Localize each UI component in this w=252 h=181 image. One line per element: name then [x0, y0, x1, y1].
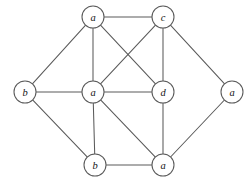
graph-node[interactable]: a — [221, 81, 243, 103]
graph-node[interactable]: a — [152, 154, 174, 176]
graph-edge — [171, 100, 225, 157]
graph-node-label: a — [90, 12, 95, 23]
graph-node-label: a — [90, 87, 95, 98]
graph-edge — [93, 103, 94, 154]
graph-canvas: acbadaba — [0, 0, 252, 181]
node-layer: acbadaba — [14, 6, 243, 176]
graph-edge — [101, 100, 156, 157]
edge-layer — [32, 17, 224, 165]
graph-edge — [33, 100, 88, 157]
graph-node-label: b — [22, 87, 27, 98]
graph-node[interactable]: a — [82, 81, 104, 103]
graph-edge — [170, 25, 224, 84]
graph-node-label: a — [160, 160, 165, 171]
graph-diagram: acbadaba — [0, 0, 252, 181]
graph-node[interactable]: d — [152, 81, 174, 103]
graph-node-label: d — [160, 87, 166, 98]
graph-node-label: c — [161, 12, 166, 23]
graph-edge — [32, 25, 85, 84]
graph-node[interactable]: c — [152, 6, 174, 28]
graph-node[interactable]: a — [82, 6, 104, 28]
graph-node-label: b — [92, 160, 97, 171]
graph-node[interactable]: b — [84, 154, 106, 176]
graph-node-label: a — [229, 87, 234, 98]
graph-node[interactable]: b — [14, 81, 36, 103]
